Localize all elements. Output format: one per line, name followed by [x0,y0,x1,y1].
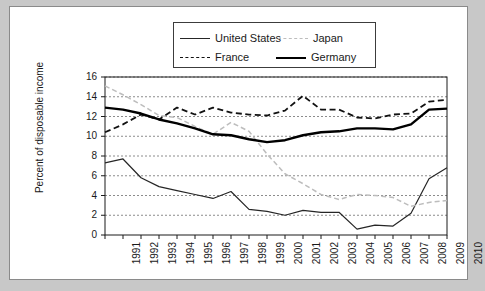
x-tick-label: 2004 [365,242,376,264]
x-tick-label: 1996 [221,242,232,264]
chart-panel: United States Japan France Germany Per [9,6,468,280]
us-line-swatch-icon [180,33,210,42]
x-tick-label: 1998 [257,242,268,264]
japan-line-swatch-icon [278,33,308,42]
series-line-japan [105,86,447,206]
gridlines [105,77,447,215]
x-tick-label: 2000 [293,242,304,264]
x-tick-label: 1993 [167,242,178,264]
germany-line-swatch-icon [276,52,306,61]
legend-label-germany: Germany [311,51,356,63]
x-tick-label: 2001 [311,242,322,264]
axis-ticks [101,77,447,239]
x-tick-label: 2010 [473,242,484,264]
x-tick-label: 1995 [203,242,214,264]
plot-area: 0246810121416 19911992199319941995199619… [75,69,453,249]
y-tick-label: 10 [75,130,97,141]
x-tick-label: 2006 [401,242,412,264]
legend-entry-japan[interactable]: Japan [278,32,369,44]
legend-entry-united-states[interactable]: United States [180,32,278,44]
legend-label-japan: Japan [313,32,343,44]
x-tick-label: 2007 [419,242,430,264]
data-lines [105,86,447,229]
legend-label-united-states: United States [215,32,281,44]
y-tick-label: 12 [75,111,97,122]
chart-legend: United States Japan France Germany [173,22,376,68]
y-tick-label: 6 [75,170,97,181]
x-tick-label: 1992 [149,242,160,264]
x-tick-label: 1994 [185,242,196,264]
y-tick-label: 8 [75,150,97,161]
chart-svg [75,69,453,249]
x-tick-label: 2002 [329,242,340,264]
x-tick-label: 1999 [275,242,286,264]
series-line-united-states [105,159,447,229]
france-line-swatch-icon [180,52,210,61]
y-tick-label: 4 [75,190,97,201]
x-tick-label: 1997 [239,242,250,264]
x-tick-label: 2005 [383,242,394,264]
y-axis-title: Percent of disposable income [34,48,45,208]
y-tick-label: 0 [75,229,97,240]
x-tick-label: 2008 [437,242,448,264]
legend-row-1: United States Japan [180,28,369,47]
chart-figure: United States Japan France Germany Per [0,0,485,291]
x-tick-label: 2009 [455,242,466,264]
legend-entry-germany[interactable]: Germany [276,51,369,63]
y-tick-label: 14 [75,91,97,102]
y-tick-label: 16 [75,71,97,82]
x-tick-label: 2003 [347,242,358,264]
legend-label-france: France [215,51,249,63]
legend-entry-france[interactable]: France [180,51,276,63]
x-tick-label: 1991 [131,242,142,264]
plot-border [105,77,447,235]
y-tick-label: 2 [75,209,97,220]
legend-row-2: France Germany [180,47,369,66]
